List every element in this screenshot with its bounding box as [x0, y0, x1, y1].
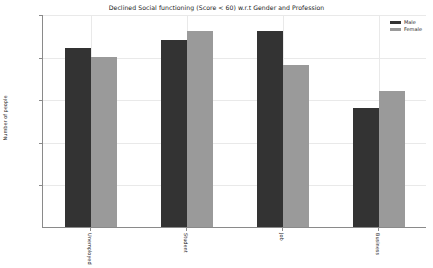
- x-tick-label-student: Student: [183, 233, 189, 253]
- bar-female-job: [283, 65, 309, 227]
- bar-male-job: [257, 31, 283, 227]
- x-tick-mark: [186, 228, 187, 231]
- legend-swatch-female-icon: [390, 28, 401, 32]
- bar-male-business: [353, 108, 379, 227]
- legend-item-female: Female: [390, 26, 422, 33]
- legend-item-male: Male: [390, 19, 422, 26]
- bar-female-unemployed: [91, 57, 117, 227]
- legend-label-male: Male: [404, 19, 416, 26]
- bar-female-business: [379, 91, 405, 227]
- bar-male-student: [161, 40, 187, 227]
- chart-figure: Declined Social functioning (Score < 60)…: [0, 0, 433, 268]
- x-tick-mark: [90, 228, 91, 231]
- bar-female-student: [187, 31, 213, 227]
- y-axis-label: Number of people: [2, 95, 8, 140]
- legend-label-female: Female: [404, 26, 422, 33]
- x-tick-mark: [282, 228, 283, 231]
- gridline-horizontal: [43, 15, 426, 16]
- plot-area: [42, 15, 426, 228]
- x-tick-mark: [378, 228, 379, 231]
- chart-legend: Male Female: [387, 17, 425, 35]
- x-tick-label-job: Job: [279, 233, 285, 241]
- x-tick-label-unemployed: Unemployed: [87, 233, 93, 265]
- bar-male-unemployed: [65, 48, 91, 227]
- x-tick-label-business: Business: [375, 233, 381, 255]
- chart-title: Declined Social functioning (Score < 60)…: [0, 4, 433, 11]
- legend-swatch-male-icon: [390, 21, 401, 25]
